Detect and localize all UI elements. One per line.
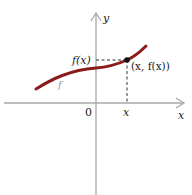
- function-graph: y x 0 x f(x) (x, f(x)) f: [0, 0, 192, 195]
- y-tick-label: f(x): [71, 54, 91, 67]
- y-axis-label: y: [102, 12, 110, 25]
- curve-label: f: [57, 79, 64, 90]
- x-tick-label: x: [123, 106, 130, 119]
- x-axis-label: x: [178, 109, 185, 122]
- point-label: (x, f(x)): [131, 60, 170, 72]
- point-marker: [124, 57, 130, 63]
- origin-label: 0: [85, 106, 92, 119]
- function-curve: [36, 46, 146, 89]
